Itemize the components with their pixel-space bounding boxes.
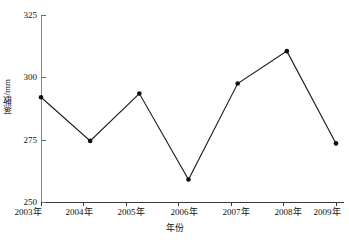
data-point [137, 91, 142, 96]
series-line [41, 51, 336, 179]
data-point [39, 95, 44, 100]
data-point [186, 177, 191, 182]
data-point [235, 81, 240, 86]
evaporation-line-chart: 325 300 275 250 蒸散/mm 2003年 2004年 2005年 … [0, 0, 349, 247]
series-markers [39, 49, 339, 182]
data-point [88, 139, 93, 144]
data-point [285, 49, 290, 54]
data-point [334, 141, 339, 146]
data-series-svg [0, 0, 349, 247]
